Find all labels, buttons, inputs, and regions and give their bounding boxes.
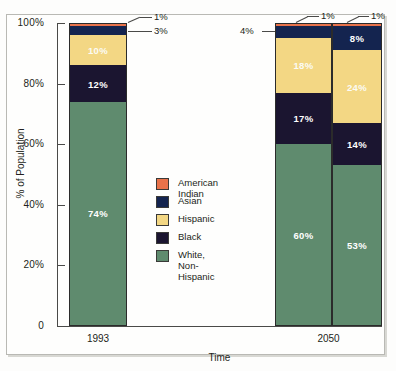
callout-2050a-american-indian: 1% (321, 10, 335, 21)
segment-value: 8% (333, 33, 381, 44)
bar-2050-b[interactable]: 53% 14% 24% 8% (332, 23, 382, 326)
segment-black[interactable]: 12% (69, 65, 127, 101)
segment-value: 12% (70, 78, 126, 89)
segment-american-indian[interactable] (69, 23, 127, 26)
y-tick-label-60: 60% (23, 138, 44, 149)
plot-area: 100% 80% 60% 40% 20% 0 % of Population T… (0, 0, 396, 371)
legend-label: Asian (178, 195, 202, 206)
segment-black[interactable]: 17% (275, 93, 332, 145)
callout-2050a-asian: 4% (240, 25, 254, 36)
segment-american-indian[interactable] (332, 23, 382, 26)
segment-asian[interactable] (275, 26, 332, 38)
segment-white-non-hispanic[interactable]: 74% (69, 102, 127, 326)
x-tick-label-1993: 1993 (69, 333, 127, 344)
leader-line-1993-american-indian (128, 17, 140, 23)
segment-value: 74% (70, 208, 126, 219)
legend-label: Black (178, 231, 201, 242)
segment-hispanic[interactable]: 18% (275, 38, 332, 93)
y-tick-label-80: 80% (23, 78, 44, 89)
y-tick-40 (58, 205, 65, 206)
x-axis-line (57, 326, 382, 327)
y-tick-label-0: 0 (38, 320, 44, 331)
y-tick-label-40: 40% (23, 199, 44, 210)
y-tick-80 (58, 84, 65, 85)
legend-swatch-american-indian (156, 178, 169, 190)
segment-asian[interactable]: 8% (332, 26, 382, 50)
chart-page: 100% 80% 60% 40% 20% 0 % of Population T… (0, 0, 396, 371)
leader-line-1993-asian (128, 31, 152, 32)
segment-value: 60% (276, 229, 331, 240)
legend-label: Hispanic (178, 213, 214, 224)
y-tick-60 (58, 144, 65, 145)
leader-line-1993-american-indian-h (140, 17, 152, 18)
leader-line-2050a-asian (262, 31, 275, 32)
leader-line-2050a-american-indian-h (307, 16, 319, 17)
callout-2050b-american-indian: 1% (371, 10, 385, 21)
legend-swatch-hispanic (156, 214, 169, 226)
legend-label: White, Non-Hispanic (178, 249, 214, 282)
segment-value: 24% (333, 81, 381, 92)
segment-hispanic[interactable]: 24% (332, 50, 382, 123)
y-tick-label-20: 20% (23, 259, 44, 270)
segment-black[interactable]: 14% (332, 123, 382, 165)
legend-swatch-black (156, 232, 169, 244)
bar-1993[interactable]: 74% 12% 10% (69, 23, 127, 326)
callout-1993-american-indian: 1% (154, 11, 168, 22)
legend-swatch-asian (156, 196, 169, 208)
callout-1993-asian: 3% (154, 25, 168, 36)
y-axis-label: % of Population (15, 104, 26, 224)
segment-american-indian[interactable] (275, 23, 332, 26)
leader-line-2050a-american-indian (296, 16, 308, 23)
segment-asian[interactable] (69, 26, 127, 35)
leader-line-2050b-american-indian-h (358, 16, 369, 17)
y-tick-label-100: 100% (18, 17, 44, 28)
y-tick-100 (58, 23, 65, 24)
segment-value: 53% (333, 240, 381, 251)
segment-value: 10% (70, 45, 126, 56)
x-axis-label: Time (57, 352, 382, 363)
y-tick-20 (58, 265, 65, 266)
bar-2050-a[interactable]: 60% 17% 18% (275, 23, 332, 326)
segment-value: 14% (333, 139, 381, 150)
y-axis-line (57, 23, 58, 327)
segment-hispanic[interactable]: 10% (69, 35, 127, 65)
segment-value: 17% (276, 113, 331, 124)
segment-value: 18% (276, 60, 331, 71)
legend-swatch-white-non-hispanic (156, 250, 169, 262)
segment-white-non-hispanic[interactable]: 60% (275, 144, 332, 326)
leader-line-2050b-american-indian (347, 16, 359, 23)
segment-white-non-hispanic[interactable]: 53% (332, 165, 382, 326)
x-tick-label-2050: 2050 (275, 333, 382, 344)
